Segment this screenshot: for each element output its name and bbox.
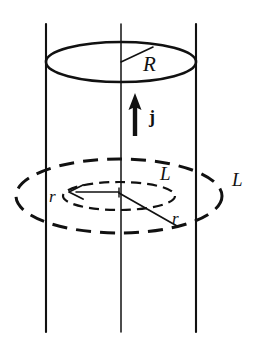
physics-figure: R j L L r r xyxy=(0,0,262,356)
label-inner-loop-L: L xyxy=(160,164,171,183)
label-inner-radius-left-r: r xyxy=(49,188,56,205)
label-outer-radius-R: R xyxy=(143,54,156,75)
label-outer-loop-L: L xyxy=(232,170,243,189)
cylinder-lines xyxy=(46,24,196,332)
current-density-arrow xyxy=(129,93,142,136)
label-current-density-j: j xyxy=(149,108,155,126)
figure-canvas xyxy=(0,0,262,356)
label-inner-radius-right-r: r xyxy=(172,210,179,227)
